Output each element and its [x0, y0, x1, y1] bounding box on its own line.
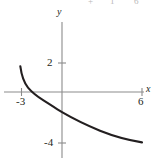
coordinate-plane	[0, 0, 156, 158]
x-tick-label-6: 6	[138, 96, 144, 107]
y-axis-label: y	[57, 7, 61, 17]
x-axis-label: x	[146, 84, 150, 94]
y-tick-label-neg4: -4	[44, 137, 53, 148]
x-tick-label-neg3: -3	[16, 96, 25, 107]
graph-figure: + 1 6 y x 2 -4 -3 6	[0, 0, 156, 158]
curve-path	[20, 66, 142, 142]
y-tick-label-2: 2	[47, 57, 53, 68]
